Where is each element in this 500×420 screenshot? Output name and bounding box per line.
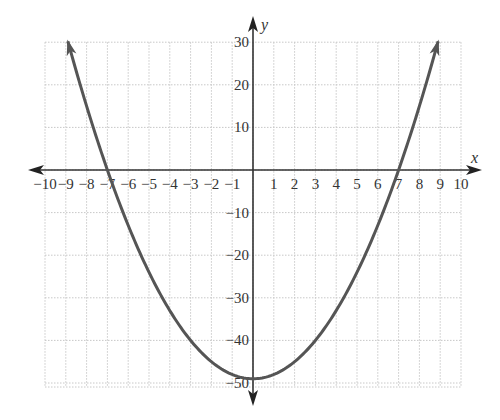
x-tick-label: −9: [58, 176, 74, 192]
x-tick-label: −5: [141, 176, 157, 192]
x-tick-label: 10: [454, 176, 469, 192]
y-tick-label: −20: [226, 247, 249, 263]
x-tick-labels: −10−9−8−7−6−5−4−3−2−112345678910: [33, 176, 468, 192]
x-tick-label: 2: [291, 176, 299, 192]
x-tick-label: −4: [162, 176, 178, 192]
x-tick-label: −6: [120, 176, 136, 192]
y-tick-label: −30: [226, 290, 249, 306]
y-tick-labels: 302010−10−20−30−40−50: [226, 34, 249, 391]
y-tick-label: 30: [234, 34, 249, 50]
parabola-chart: −10−9−8−7−6−5−4−3−2−112345678910 302010−…: [0, 0, 500, 420]
x-tick-label: 4: [332, 176, 340, 192]
y-axis-label: y: [259, 16, 269, 34]
x-tick-label: 6: [374, 176, 382, 192]
x-tick-label: −1: [224, 176, 240, 192]
x-tick-label: 3: [312, 176, 320, 192]
y-tick-label: −10: [226, 205, 249, 221]
y-tick-label: 10: [234, 119, 249, 135]
x-tick-label: 8: [416, 176, 424, 192]
y-tick-label: −40: [226, 332, 249, 348]
x-tick-label: 1: [270, 176, 278, 192]
x-tick-label: −3: [183, 176, 199, 192]
x-tick-label: 9: [436, 176, 444, 192]
axes: [28, 16, 482, 406]
y-tick-label: 20: [234, 77, 249, 93]
x-tick-label: −10: [33, 176, 56, 192]
x-tick-label: −8: [79, 176, 95, 192]
x-axis-label: x: [470, 149, 478, 166]
x-tick-label: −2: [203, 176, 219, 192]
x-tick-label: 5: [353, 176, 361, 192]
